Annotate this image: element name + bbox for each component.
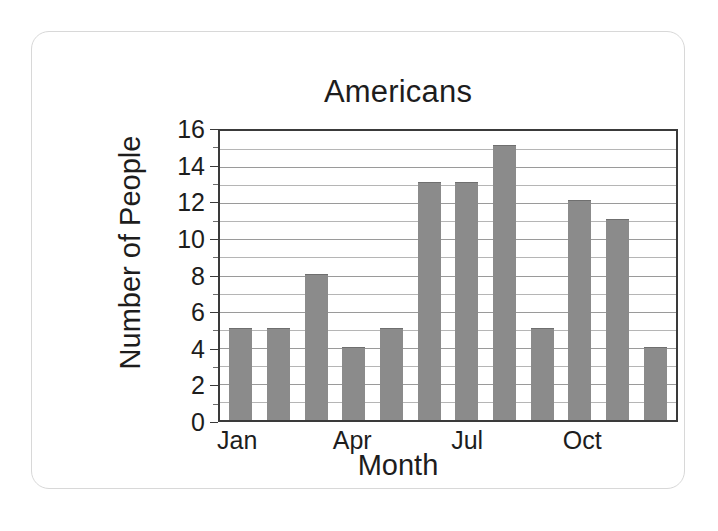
bar bbox=[455, 182, 478, 420]
bar bbox=[568, 200, 591, 420]
y-axis-title: Number of People bbox=[114, 133, 147, 373]
y-tick bbox=[210, 349, 218, 350]
plot-area bbox=[218, 129, 678, 422]
bar bbox=[606, 219, 629, 420]
y-tick-label: 12 bbox=[177, 188, 205, 217]
bar bbox=[380, 328, 403, 420]
y-tick-minor bbox=[213, 184, 218, 185]
y-tick-label: 6 bbox=[191, 298, 205, 327]
x-axis-title: Month bbox=[72, 449, 718, 482]
y-tick-label: 2 bbox=[191, 371, 205, 400]
bar-series bbox=[220, 131, 676, 420]
y-tick-label: 16 bbox=[177, 115, 205, 144]
bar bbox=[531, 328, 554, 420]
y-tick-label: 14 bbox=[177, 151, 205, 180]
y-tick bbox=[210, 239, 218, 240]
bar bbox=[305, 274, 328, 421]
y-tick bbox=[210, 312, 218, 313]
y-tick-minor bbox=[213, 330, 218, 331]
plot-wrapper: 0246810121416 bbox=[218, 129, 678, 422]
y-tick-label: 8 bbox=[191, 261, 205, 290]
y-tick-label: 0 bbox=[191, 408, 205, 437]
y-tick bbox=[210, 166, 218, 167]
y-tick-minor bbox=[213, 404, 218, 405]
y-tick-minor bbox=[213, 147, 218, 148]
bar bbox=[644, 347, 667, 420]
scan-cutoff-text: . . . . . bbox=[300, 0, 600, 7]
chart-card: Americans Number of People 0246810121416… bbox=[31, 31, 685, 489]
y-tick-minor bbox=[213, 294, 218, 295]
y-tick bbox=[210, 276, 218, 277]
bar bbox=[493, 145, 516, 420]
y-tick-minor bbox=[213, 367, 218, 368]
y-tick bbox=[210, 202, 218, 203]
y-tick-minor bbox=[213, 221, 218, 222]
y-tick-label: 4 bbox=[191, 334, 205, 363]
bar bbox=[418, 182, 441, 420]
y-tick bbox=[210, 385, 218, 386]
y-tick-label: 10 bbox=[177, 224, 205, 253]
bar bbox=[267, 328, 290, 420]
bar-chart: Americans Number of People 0246810121416… bbox=[72, 48, 718, 504]
bar bbox=[229, 328, 252, 420]
y-tick bbox=[210, 422, 218, 423]
y-tick-minor bbox=[213, 257, 218, 258]
y-tick bbox=[210, 129, 218, 130]
chart-title: Americans bbox=[72, 74, 718, 110]
bar bbox=[342, 347, 365, 420]
